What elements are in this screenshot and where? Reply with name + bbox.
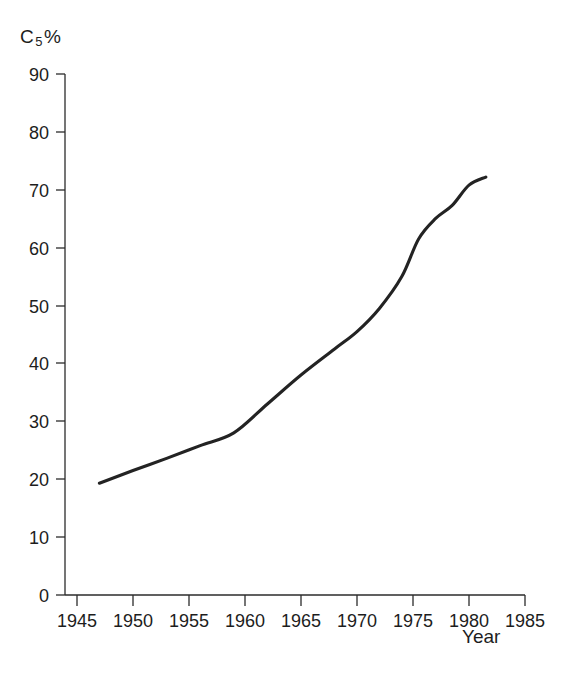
x-tick-label-1960: 1960 <box>225 611 265 631</box>
x-tick-label-1955: 1955 <box>169 611 209 631</box>
y-tick-label-20: 20 <box>29 470 49 490</box>
line-chart-plot: 90 80 70 60 50 40 30 20 10 0 <box>0 0 572 673</box>
y-tick-label-80: 80 <box>29 123 49 143</box>
y-tick-label-90: 90 <box>29 65 49 85</box>
y-tick-label-30: 30 <box>29 412 49 432</box>
y-axis: 90 80 70 60 50 40 30 20 10 0 <box>29 65 65 606</box>
y-tick-label-10: 10 <box>29 528 49 548</box>
x-tick-label-1950: 1950 <box>113 611 153 631</box>
x-tick-label-1965: 1965 <box>281 611 321 631</box>
x-tick-label-1985: 1985 <box>505 611 545 631</box>
y-axis-tick-labels: 90 80 70 60 50 40 30 20 10 0 <box>29 65 49 606</box>
x-tick-label-1945: 1945 <box>57 611 97 631</box>
y-tick-label-0: 0 <box>39 586 49 606</box>
x-tick-label-1980: 1980 <box>449 611 489 631</box>
x-axis-ticks <box>77 595 525 606</box>
chart-figure: C5% Year 90 80 70 60 50 <box>0 0 572 673</box>
y-tick-label-40: 40 <box>29 354 49 374</box>
y-tick-label-50: 50 <box>29 297 49 317</box>
y-axis-ticks <box>56 74 65 595</box>
x-axis-tick-labels: 1945 1950 1955 1960 1965 1970 1975 1980 … <box>57 611 545 631</box>
y-tick-label-60: 60 <box>29 239 49 259</box>
x-axis: 1945 1950 1955 1960 1965 1970 1975 1980 … <box>57 595 545 631</box>
x-tick-label-1975: 1975 <box>393 611 433 631</box>
x-tick-label-1970: 1970 <box>337 611 377 631</box>
y-tick-label-70: 70 <box>29 181 49 201</box>
data-series-line <box>99 177 485 483</box>
